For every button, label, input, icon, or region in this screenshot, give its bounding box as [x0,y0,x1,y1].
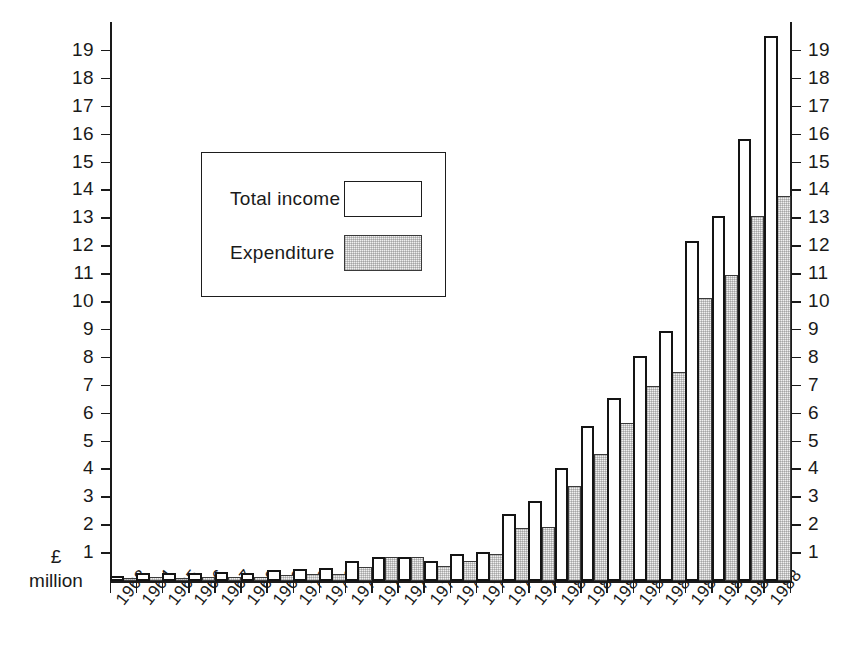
bar-expenditure [725,275,739,581]
bar-total-income [398,557,412,581]
y-axis-right-tick-mark [791,162,801,164]
bar-expenditure [437,566,451,581]
y-axis-right-tick-label: 4 [808,457,850,479]
chart-canvas: £ million 19181716151413121110987654321 … [0,0,867,658]
y-axis-left-tick-mark [101,441,111,443]
bar-expenditure [751,216,765,581]
legend-item-expenditure: Expenditure [230,235,422,271]
y-axis-right-tick-mark [791,468,801,470]
y-axis-right-tick-label: 2 [808,513,850,535]
y-axis-right-tick-label: 3 [808,485,850,507]
y-axis-left-tick-label: 12 [52,234,94,256]
y-axis-left-tick-mark [101,245,111,247]
bar-expenditure [175,578,189,581]
bar-total-income [267,570,281,581]
y-axis-left-tick-label: 9 [52,318,94,340]
y-axis-right-tick-label: 9 [808,318,850,340]
y-axis-left-tick-mark [101,301,111,303]
bar-expenditure [411,557,425,581]
bar-total-income [450,554,464,581]
y-axis-left-tick-label: 16 [52,123,94,145]
y-axis-right-tick-mark [791,273,801,275]
bar-expenditure [385,557,399,581]
y-axis-right-tick-mark [791,329,801,331]
y-axis-right-tick-mark [791,385,801,387]
bar-expenditure [777,196,791,581]
bar-total-income [319,568,333,581]
bar-total-income [502,514,516,581]
bar-total-income [712,216,726,581]
y-axis-left-tick-mark [101,329,111,331]
y-axis-left-tick-mark [101,273,111,275]
legend-label-expenditure: Expenditure [230,242,335,264]
bar-expenditure [123,578,137,581]
bar-expenditure [542,527,556,581]
y-axis-left-tick-label: 8 [52,346,94,368]
y-axis-left-tick-mark [101,106,111,108]
bar-total-income [293,569,307,581]
chart-legend: Total income Expenditure [201,152,446,297]
legend-label-total-income: Total income [230,188,340,210]
y-axis-left-tick-mark [101,134,111,136]
bar-total-income [372,557,386,581]
bar-total-income [476,552,490,581]
y-axis-right-tick-label: 10 [808,290,850,312]
bar-total-income [764,36,778,581]
y-axis-right-tick-label: 12 [808,234,850,256]
y-axis-unit-scale: million [8,569,104,593]
bar-total-income [555,468,569,581]
bar-expenditure [332,574,346,581]
y-axis-left-tick-label: 13 [52,206,94,228]
y-axis-right-tick-label: 19 [808,39,850,61]
y-axis-left-tick-label: 7 [52,374,94,396]
y-axis-right-tick-mark [791,413,801,415]
bar-expenditure [254,577,268,581]
y-axis-right-tick-label: 14 [808,178,850,200]
y-axis-left-tick-label: 3 [52,485,94,507]
y-axis-right-tick-mark [791,134,801,136]
bar-expenditure [594,454,608,581]
y-axis-left-tick-mark [101,552,111,554]
bar-expenditure [620,423,634,581]
y-axis-left-tick-mark [101,189,111,191]
y-axis-right-tick-label: 18 [808,67,850,89]
y-axis-right-tick-mark [791,357,801,359]
legend-swatch-expenditure [344,235,422,271]
bar-total-income [607,398,621,581]
y-axis-left-tick-mark [101,217,111,219]
bar-total-income [528,501,542,581]
y-axis-right-tick-mark [791,441,801,443]
bar-expenditure [515,528,529,581]
bar-expenditure [489,554,503,581]
y-axis-right-tick-label: 7 [808,374,850,396]
y-axis-left-tick-mark [101,468,111,470]
y-axis-right-tick-label: 8 [808,346,850,368]
y-axis-right-tick-label: 6 [808,402,850,424]
bar-total-income [659,331,673,581]
bar-total-income [110,576,124,581]
bar-total-income [241,573,255,581]
y-axis-left-tick-label: 2 [52,513,94,535]
y-axis-left-tick-label: 19 [52,39,94,61]
bar-total-income [581,426,595,581]
y-axis-right-tick-label: 16 [808,123,850,145]
y-axis-left-tick-mark [101,413,111,415]
y-axis-right-tick-label: 5 [808,430,850,452]
y-axis-right-tick-label: 17 [808,95,850,117]
y-axis-left-tick-mark [101,524,111,526]
y-axis-right-tick-label: 11 [808,262,850,284]
y-axis-right-tick-mark [791,106,801,108]
y-axis-left-tick-label: 18 [52,67,94,89]
y-axis-left-tick-mark [101,162,111,164]
y-axis-left-tick-label: 6 [52,402,94,424]
bar-total-income [633,356,647,581]
y-axis-left-tick-label: 10 [52,290,94,312]
bar-expenditure [358,567,372,581]
y-axis-left-tick-label: 15 [52,151,94,173]
bar-total-income [215,572,229,581]
y-axis-left-tick-label: 17 [52,95,94,117]
y-axis-left-tick-label: 4 [52,457,94,479]
y-axis-left-tick-mark [101,496,111,498]
y-axis-right-tick-mark [791,245,801,247]
x-axis-tick-mark [110,583,112,593]
